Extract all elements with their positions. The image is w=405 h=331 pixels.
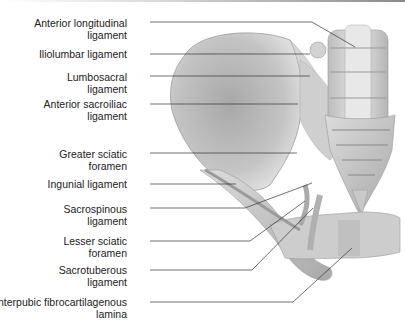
label-lesser-sciatic-foramen: Lesser sciatic foramen xyxy=(63,235,127,259)
label-inguinal-ligament: Ingunial ligament xyxy=(48,178,127,190)
label-greater-sciatic-foramen: Greater sciatic foramen xyxy=(59,148,127,172)
label-interpubic-fibrocartilagenous-lamina: Interpubic fibrocartilagenous lamina xyxy=(0,296,127,320)
label-sacrotuberous-ligament: Sacrotuberous ligament xyxy=(59,264,127,288)
label-lumbosacral-ligament: Lumbosacral ligament xyxy=(67,71,127,95)
label-sacrospinous-ligament: Sacrospinous ligament xyxy=(63,203,127,227)
label-anterior-longitudinal-ligament: Anterior longitudinal ligament xyxy=(34,17,127,41)
label-anterior-sacroiliac-ligament: Anterior sacroiliac ligament xyxy=(44,98,127,122)
label-iliolumbar-ligament: Iliolumbar ligament xyxy=(39,48,127,60)
